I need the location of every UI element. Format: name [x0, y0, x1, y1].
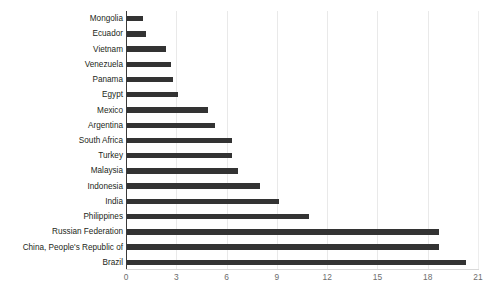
y-axis-label: South Africa	[0, 133, 123, 148]
bar-row	[126, 194, 478, 209]
y-axis-label-text: China, People's Republic of	[23, 243, 123, 252]
x-tick-label-18: 18	[408, 272, 448, 283]
y-axis-label-text: South Africa	[79, 136, 123, 145]
bar-row	[126, 224, 478, 239]
bar	[126, 31, 146, 36]
plot-area	[126, 11, 478, 270]
bar	[126, 260, 466, 265]
bar-row	[126, 57, 478, 72]
y-axis-label-text: Mongolia	[90, 14, 123, 23]
bar	[126, 123, 215, 128]
x-tick-label-0: 0	[106, 272, 146, 283]
y-axis-label: Venezuela	[0, 57, 123, 72]
bar-row	[126, 133, 478, 148]
y-axis-label: Brazil	[0, 255, 123, 270]
bar-row	[126, 11, 478, 26]
y-axis-label-text: Russian Federation	[52, 227, 123, 236]
bar	[126, 153, 232, 158]
bar	[126, 62, 171, 67]
bar-row	[126, 41, 478, 56]
gridline-21	[478, 11, 479, 270]
x-tick-label-15: 15	[357, 272, 397, 283]
bar	[126, 214, 309, 219]
y-axis-label: China, People's Republic of	[0, 240, 123, 255]
bar-row	[126, 118, 478, 133]
bar	[126, 199, 279, 204]
y-axis-label-text: Argentina	[88, 121, 123, 130]
y-axis-label: Egypt	[0, 87, 123, 102]
bar-row	[126, 72, 478, 87]
y-axis-label-text: Egypt	[102, 90, 123, 99]
y-axis-label: Philippines	[0, 209, 123, 224]
x-tick-label-6: 6	[207, 272, 247, 283]
y-axis-label: Panama	[0, 72, 123, 87]
bar-row	[126, 87, 478, 102]
y-axis-category-labels: MongoliaEcuadorVietnamVenezuelaPanamaEgy…	[0, 11, 123, 270]
x-axis-baseline	[126, 269, 479, 270]
bar	[126, 138, 232, 143]
y-axis-label: India	[0, 194, 123, 209]
bar	[126, 46, 166, 51]
y-axis-label-text: Mexico	[97, 106, 123, 115]
bar-row	[126, 163, 478, 178]
x-axis-tick-labels: 036912151821	[0, 272, 495, 286]
y-axis-label: Vietnam	[0, 41, 123, 56]
y-axis-label-text: Malaysia	[91, 166, 123, 175]
y-axis-label: Malaysia	[0, 163, 123, 178]
y-axis-label-text: Vietnam	[93, 45, 123, 54]
y-axis-label-text: Venezuela	[85, 60, 123, 69]
bar-row	[126, 179, 478, 194]
y-axis-label: Mexico	[0, 102, 123, 117]
x-tick-label-9: 9	[257, 272, 297, 283]
y-axis-label: Mongolia	[0, 11, 123, 26]
x-tick-label-21: 21	[458, 272, 495, 283]
bar	[126, 244, 439, 249]
y-axis-label-text: Brazil	[103, 258, 123, 267]
y-axis-label-text: Panama	[93, 75, 124, 84]
bar	[126, 92, 178, 97]
bar-chart: MongoliaEcuadorVietnamVenezuelaPanamaEgy…	[0, 0, 495, 299]
y-axis-label: Ecuador	[0, 26, 123, 41]
bar-row	[126, 102, 478, 117]
bar	[126, 229, 439, 234]
y-axis-label-text: Ecuador	[93, 29, 124, 38]
bar	[126, 168, 238, 173]
bar-row	[126, 255, 478, 270]
bar	[126, 16, 143, 21]
bar-row	[126, 148, 478, 163]
y-axis-label-text: Philippines	[83, 212, 123, 221]
bar-row	[126, 209, 478, 224]
bar-row	[126, 26, 478, 41]
bar	[126, 77, 173, 82]
y-axis-line	[126, 11, 127, 270]
y-axis-label-text: India	[105, 197, 123, 206]
y-axis-label: Russian Federation	[0, 224, 123, 239]
bar	[126, 107, 208, 112]
x-tick-label-3: 3	[156, 272, 196, 283]
bar	[126, 183, 260, 188]
y-axis-label-text: Indonesia	[87, 182, 123, 191]
y-axis-label: Argentina	[0, 118, 123, 133]
y-axis-label-text: Turkey	[98, 151, 123, 160]
bar-row	[126, 240, 478, 255]
x-tick-label-12: 12	[307, 272, 347, 283]
y-axis-label: Turkey	[0, 148, 123, 163]
y-axis-label: Indonesia	[0, 179, 123, 194]
